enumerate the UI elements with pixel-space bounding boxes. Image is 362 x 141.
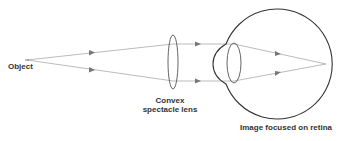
arrow-icon (195, 42, 201, 47)
retina-label: Image focused on retina (240, 123, 332, 132)
lens-label-line1: Convex (138, 96, 202, 105)
arrow-icon (89, 67, 95, 73)
arrow-icon (195, 79, 201, 84)
arrow-icon (89, 50, 95, 56)
eye-lens (227, 43, 241, 83)
ray-diagram (0, 0, 362, 141)
eyeball-outline (213, 9, 332, 119)
lens-label-line2: spectacle lens (138, 105, 202, 114)
ray-upper-incoming (27, 44, 173, 60)
arrow-icon (275, 51, 281, 56)
spectacle-lens-label: Convex spectacle lens (138, 96, 202, 114)
ray-lower-incoming (27, 60, 173, 81)
incoming-rays (27, 44, 326, 81)
object-label: Object (8, 62, 33, 71)
arrow-icon (275, 71, 281, 76)
